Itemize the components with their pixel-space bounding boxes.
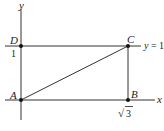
label-b: B (131, 88, 138, 100)
sqrt-symbol: √ (118, 107, 125, 119)
line-equation-label: y = 1 (143, 40, 164, 51)
label-d: D (9, 34, 18, 46)
y-axis-label: y (18, 0, 24, 11)
label-a: A (9, 89, 17, 101)
diagonal-ac (21, 46, 128, 100)
equation-lhs: y (143, 40, 149, 51)
coordinate-diagram: y x A B C D 1 √ 3 y = 1 (0, 0, 164, 131)
point-b (126, 98, 130, 102)
equation-rhs: 1 (159, 40, 164, 51)
point-d (19, 44, 23, 48)
y-tick-label-1: 1 (11, 48, 16, 59)
point-a (19, 98, 23, 102)
x-axis-label: x (156, 93, 162, 105)
x-tick-label-sqrt3: √ 3 (118, 107, 133, 120)
label-c: C (127, 33, 135, 45)
equation-eq: = (151, 40, 157, 51)
sqrt-radicand: 3 (126, 108, 131, 119)
